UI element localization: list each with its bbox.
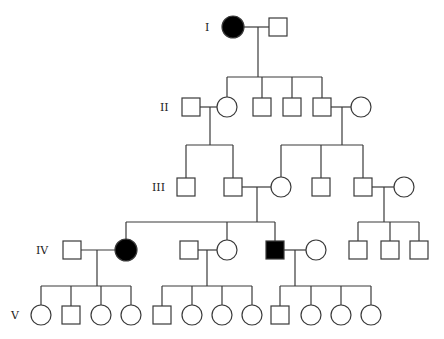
unaffected-female-individual-v-1 — [31, 305, 51, 325]
unaffected-male-individual-iv-8 — [381, 241, 399, 259]
unaffected-male-individual-ii-5 — [313, 98, 331, 116]
unaffected-male-individual-v-9 — [271, 306, 289, 324]
unaffected-male-individual-v-2 — [62, 306, 80, 324]
generation-label: II — [160, 101, 169, 114]
unaffected-male-individual-ii-3 — [253, 98, 271, 116]
unaffected-female-individual-iii-3 — [271, 177, 291, 197]
unaffected-female-individual-iv-6 — [306, 240, 326, 260]
unaffected-male-individual-ii-4 — [283, 98, 301, 116]
unaffected-female-individual-v-11 — [331, 305, 351, 325]
unaffected-female-individual-iii-6 — [394, 177, 414, 197]
pedigree-chart: IIIIIIIVV — [0, 0, 444, 339]
generation-label: I — [205, 21, 209, 34]
unaffected-female-individual-v-4 — [121, 305, 141, 325]
affected-female-individual-iv-2 — [115, 239, 137, 261]
unaffected-female-individual-v-8 — [242, 305, 262, 325]
unaffected-male-individual-iii-2 — [224, 178, 242, 196]
unaffected-female-individual-ii-6 — [351, 97, 371, 117]
unaffected-female-individual-v-10 — [301, 305, 321, 325]
unaffected-male-individual-iv-7 — [349, 241, 367, 259]
generation-labels: IIIIIIIVV — [10, 21, 209, 322]
unaffected-female-individual-v-7 — [212, 305, 232, 325]
generation-label: IV — [36, 244, 49, 257]
unaffected-female-individual-v-12 — [361, 305, 381, 325]
unaffected-male-individual-iii-1 — [177, 178, 195, 196]
affected-female-individual-i-1 — [222, 16, 244, 38]
unaffected-female-individual-iv-4 — [217, 240, 237, 260]
unaffected-male-individual-v-5 — [153, 306, 171, 324]
relationship-lines — [41, 27, 419, 306]
unaffected-male-individual-iii-5 — [354, 178, 372, 196]
generation-label: V — [10, 309, 20, 322]
unaffected-male-individual-i-2 — [269, 18, 287, 36]
unaffected-male-individual-iv-3 — [180, 241, 198, 259]
unaffected-male-individual-iv-1 — [63, 241, 81, 259]
unaffected-male-individual-iii-4 — [312, 178, 330, 196]
unaffected-female-individual-v-6 — [182, 305, 202, 325]
unaffected-male-individual-iv-9 — [410, 241, 428, 259]
generation-label: III — [152, 181, 165, 194]
affected-male-individual-iv-5 — [266, 241, 284, 259]
unaffected-male-individual-ii-1 — [182, 98, 200, 116]
individuals — [31, 16, 428, 325]
unaffected-female-individual-v-3 — [91, 305, 111, 325]
unaffected-female-individual-ii-2 — [217, 97, 237, 117]
